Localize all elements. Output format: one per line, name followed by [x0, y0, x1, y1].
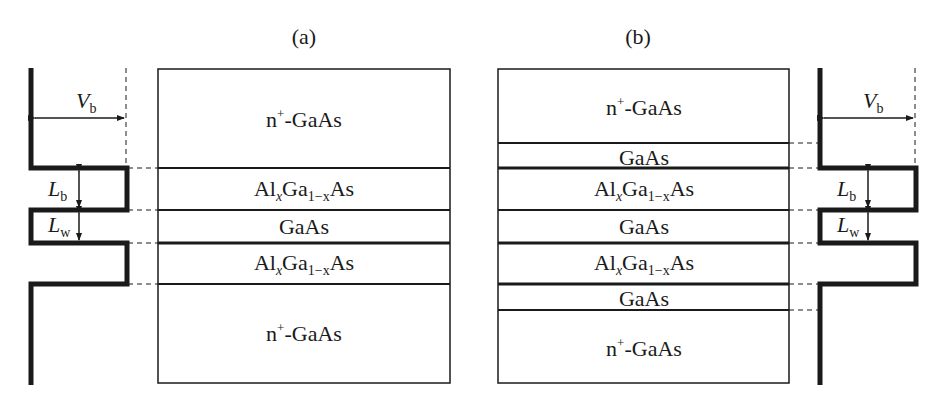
lb-label-a: Lb: [47, 176, 67, 204]
panel-label-a: (a): [292, 24, 316, 49]
layer-label-n-plus-gaas-bottom: n+-GaAs: [266, 320, 342, 346]
vb-label-a: Vb: [76, 88, 96, 116]
panel-a: n+-GaAs AlxGa1−xAs GaAs AlxGa1−xAs n+-Ga…: [31, 68, 450, 385]
lw-label-b: Lw: [836, 212, 860, 240]
layer-label-algaas-top: AlxGa1−xAs: [594, 176, 694, 204]
lb-label-b: Lb: [836, 176, 856, 204]
layer-label-n-plus-gaas-top: n+-GaAs: [266, 106, 342, 132]
layer-label-n-plus-gaas-bottom: n+-GaAs: [606, 335, 682, 361]
vb-label-b: Vb: [863, 88, 883, 116]
panel-b: n+-GaAs GaAs AlxGa1−xAs GaAs AlxGa1−xAs …: [498, 68, 916, 385]
layer-label-gaas-spacer-bottom: GaAs: [619, 286, 669, 311]
layer-label-gaas-spacer-top: GaAs: [619, 145, 669, 170]
panel-label-b: (b): [625, 24, 651, 49]
layer-label-gaas-well: GaAs: [279, 214, 329, 239]
layer-label-algaas-bottom: AlxGa1−xAs: [254, 250, 354, 278]
layer-label-algaas-bottom: AlxGa1−xAs: [594, 250, 694, 278]
layer-label-n-plus-gaas-top: n+-GaAs: [606, 94, 682, 120]
lw-label-a: Lw: [47, 212, 71, 240]
layer-label-algaas-top: AlxGa1−xAs: [254, 176, 354, 204]
layer-label-gaas-well: GaAs: [619, 214, 669, 239]
dashed-connectors-a: [126, 68, 158, 284]
double-barrier-diagram: (a) (b) n+-GaAs AlxGa1−xAs GaAs AlxGa1−x…: [0, 0, 940, 405]
